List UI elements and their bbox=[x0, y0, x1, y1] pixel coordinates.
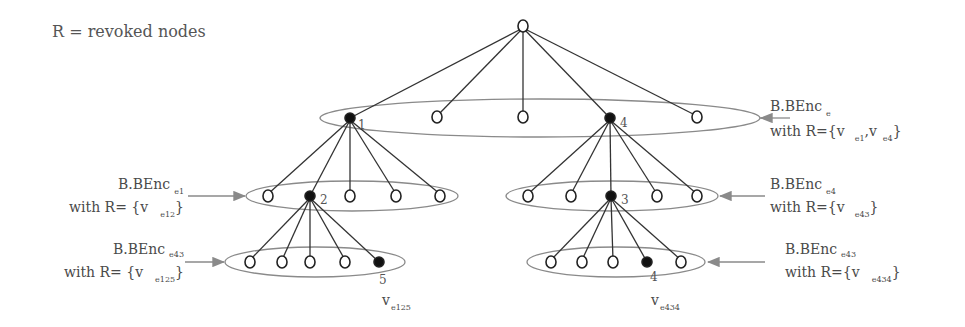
annotation-sub: e125 bbox=[155, 275, 175, 284]
edges-node4 bbox=[528, 120, 697, 196]
revoked-node-3 bbox=[606, 191, 616, 201]
node-label-4: 4 bbox=[620, 116, 628, 130]
annotation-text: } bbox=[175, 264, 184, 280]
node bbox=[523, 190, 533, 202]
node bbox=[692, 111, 702, 123]
annotation-sub: e1 bbox=[174, 187, 184, 196]
annotation-sub: e434 bbox=[872, 275, 892, 284]
annotation-title: B.BEnc bbox=[785, 241, 837, 257]
node bbox=[432, 111, 442, 123]
annotation-text: with R={v bbox=[770, 199, 845, 215]
leaf-label-right: ve434 bbox=[651, 291, 680, 312]
leaf-var: v bbox=[651, 292, 659, 308]
leaf-sub: e434 bbox=[660, 303, 680, 312]
edges-node1 bbox=[268, 120, 440, 196]
node bbox=[577, 256, 587, 268]
node bbox=[518, 111, 528, 123]
annotation-mid-right: B.BEnce4 with R={ve43} bbox=[770, 175, 879, 219]
annotation-sub: e4 bbox=[826, 187, 836, 196]
leaf-var: v bbox=[382, 292, 390, 308]
node bbox=[692, 190, 702, 202]
annotation-text: with R={v bbox=[770, 123, 845, 139]
edges-root bbox=[350, 28, 697, 118]
root-node bbox=[518, 20, 528, 32]
annotation-sub: e43 bbox=[841, 250, 856, 259]
annotation-text: } bbox=[893, 123, 902, 139]
node bbox=[391, 190, 401, 202]
leaf-label-left: ve125 bbox=[382, 291, 411, 312]
node bbox=[608, 256, 618, 268]
revoked-node-2 bbox=[305, 191, 315, 201]
annotation-text: with R= {v bbox=[69, 199, 148, 215]
node bbox=[676, 256, 686, 268]
annotation-text: } bbox=[892, 264, 901, 280]
annotation-title: B.BEnc bbox=[770, 98, 822, 114]
annotation-title: B.BEnc bbox=[118, 176, 170, 192]
annotation-sub: e12 bbox=[160, 210, 175, 219]
node bbox=[566, 190, 576, 202]
node-label-2: 2 bbox=[320, 193, 328, 207]
annotation-sub: e43 bbox=[169, 250, 184, 259]
revoked-node-5 bbox=[374, 257, 384, 267]
node bbox=[263, 190, 273, 202]
annotation-text: ,v bbox=[864, 123, 876, 139]
node bbox=[277, 256, 287, 268]
annotation-text: } bbox=[870, 199, 879, 215]
annotation-text: with R={v bbox=[785, 264, 860, 280]
edges-node3 bbox=[551, 198, 681, 262]
annotation-sub: e1 bbox=[855, 134, 865, 143]
node-label-3: 3 bbox=[621, 193, 629, 207]
leaf-sub: e125 bbox=[391, 303, 411, 312]
annotation-bottom-left: B.BEnce43 with R= {ve125} bbox=[40, 240, 184, 284]
annotation-title: B.BEnc bbox=[770, 176, 822, 192]
node bbox=[305, 256, 315, 268]
edges-node2 bbox=[250, 198, 379, 262]
node bbox=[652, 190, 662, 202]
revoked-node-4b bbox=[642, 257, 652, 267]
annotation-title: B.BEnc bbox=[113, 241, 165, 257]
node bbox=[340, 256, 350, 268]
legend-text: R = revoked nodes bbox=[52, 22, 206, 41]
annotation-top-right: B.BEnce with R={ve1,ve4} bbox=[770, 97, 902, 143]
node bbox=[435, 190, 445, 202]
revoked-node-4 bbox=[605, 113, 615, 123]
annotation-bottom-right: B.BEnce43 with R={ve434} bbox=[785, 240, 901, 284]
node bbox=[345, 190, 355, 202]
node bbox=[546, 256, 556, 268]
annotation-text: } bbox=[175, 199, 184, 215]
node-label-5: 5 bbox=[379, 273, 387, 287]
annotation-sub: e bbox=[826, 109, 831, 118]
node-label-4b: 4 bbox=[650, 270, 658, 284]
annotation-text: with R= {v bbox=[64, 264, 143, 280]
annotation-mid-left: B.BEnce1 with R= {ve12} bbox=[52, 175, 184, 219]
revoked-node-1 bbox=[345, 113, 355, 123]
annotation-sub: e4 bbox=[883, 134, 893, 143]
node-label-1: 1 bbox=[358, 118, 366, 132]
annotation-sub: e43 bbox=[855, 210, 870, 219]
node bbox=[245, 256, 255, 268]
